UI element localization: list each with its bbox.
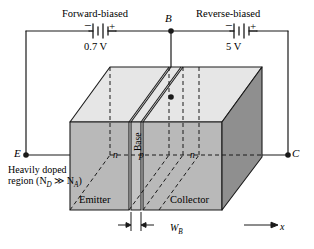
label-forward-biased: Forward-biased [62,8,128,20]
label-terminal-base: B [165,12,172,24]
heavily-doped-line1: Heavily doped [8,164,67,175]
label-right-source-voltage: 5 V [226,41,241,53]
heavily-doped-mid: ≫ N [52,175,74,186]
label-region-emitter: Emitter [79,194,111,206]
heavily-doped-prefix: region (N [8,175,47,186]
terminal-dot-base-contact [168,94,174,100]
base-width-subscript: B [178,228,182,236]
heavily-doped-line2: region (ND ≫ NA) [8,175,82,186]
x-axis-arrow [244,222,278,228]
label-left-source-minus: − [84,19,91,34]
figure-canvas: Forward-biased Reverse-biased − + 0.7 V … [0,0,314,249]
label-right-source-plus: + [250,20,256,32]
label-terminal-emitter: E [14,147,21,159]
base-width-dimension [118,212,154,231]
terminal-dot-emitter [23,152,29,158]
terminal-dot-base-top [168,28,174,34]
label-left-source-voltage: 0.7 V [84,41,107,53]
label-region-collector: Collector [170,194,209,206]
label-right-source-minus: − [225,19,232,34]
label-region-doping-n-emitter: n [113,150,118,161]
heavily-doped-suffix: ) [78,175,81,186]
label-terminal-collector: C [292,147,299,159]
label-x-axis: x [280,221,284,232]
label-base-width: WB [170,222,183,236]
label-region-doping-n-collector: n [190,150,195,161]
diagram-svg [0,0,314,249]
label-heavily-doped-note: Heavily doped region (ND ≫ NA) [8,164,82,189]
label-region-doping-p-base: p [139,150,144,161]
terminal-dot-collector [285,152,291,158]
label-left-source-plus: + [109,20,115,32]
label-region-base: Base [133,133,144,151]
